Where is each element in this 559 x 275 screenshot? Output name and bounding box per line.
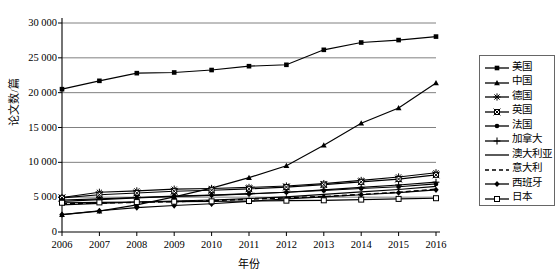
- data-point-marker: [433, 80, 439, 85]
- data-point-marker: [495, 124, 500, 129]
- legend-item[interactable]: 法国: [480, 117, 554, 132]
- data-point-marker: [209, 68, 214, 73]
- data-point-marker: [322, 48, 327, 53]
- data-point-marker: [396, 190, 401, 196]
- data-point-marker: [433, 171, 440, 178]
- data-point-marker: [396, 105, 402, 110]
- line-chart: 论文数/篇 年份 05 00010 00015 00020 00025 0003…: [0, 0, 559, 275]
- data-point-marker: [97, 79, 102, 84]
- x-tick-label: 2014: [341, 239, 381, 250]
- data-point-marker: [134, 200, 139, 205]
- legend-item[interactable]: 意大利: [480, 161, 554, 176]
- legend-item[interactable]: 美国: [480, 59, 554, 74]
- x-tick-label: 2016: [416, 239, 456, 250]
- legend-label: 美国: [510, 61, 532, 72]
- legend-label: 法国: [510, 119, 532, 130]
- data-point-marker: [135, 71, 140, 76]
- data-point-marker: [60, 87, 65, 92]
- data-point-marker: [359, 197, 364, 202]
- x-tick-label: 2013: [304, 239, 344, 250]
- legend-marker-icon: [484, 176, 510, 188]
- legend-label: 意大利: [510, 162, 542, 173]
- data-point-marker: [284, 198, 289, 203]
- plot-area: [0, 0, 559, 275]
- legend-marker-icon: [484, 60, 510, 72]
- legend-marker-icon: [484, 162, 510, 174]
- data-point-marker: [396, 38, 401, 43]
- legend-marker-icon: [484, 118, 510, 130]
- x-tick-label: 2010: [192, 239, 232, 250]
- series-line: [62, 37, 436, 90]
- x-tick-label: 2012: [266, 239, 306, 250]
- data-point-marker: [284, 63, 289, 68]
- data-point-marker: [494, 108, 501, 115]
- data-point-marker: [359, 40, 364, 45]
- data-point-marker: [284, 163, 290, 168]
- legend-item[interactable]: 澳大利亚: [480, 146, 554, 161]
- data-point-marker: [433, 187, 438, 193]
- data-point-marker: [247, 64, 252, 69]
- x-tick-label: 2015: [379, 239, 419, 250]
- legend-item[interactable]: 中国: [480, 74, 554, 89]
- legend-item[interactable]: 加拿大: [480, 132, 554, 147]
- legend-label: 德国: [510, 90, 532, 101]
- data-point-marker: [493, 94, 500, 101]
- legend-item[interactable]: 英国: [480, 103, 554, 118]
- legend-label: 加拿大: [510, 133, 542, 144]
- legend-label: 英国: [510, 104, 532, 115]
- data-point-marker: [495, 196, 500, 201]
- legend-marker-icon: [484, 89, 510, 101]
- legend-item[interactable]: 西班牙: [480, 175, 554, 190]
- data-point-marker: [358, 184, 365, 191]
- chart-legend: 美国中国德国英国法国加拿大澳大利亚意大利西班牙日本: [479, 55, 555, 206]
- data-point-marker: [321, 142, 327, 147]
- legend-marker-icon: [484, 133, 510, 145]
- x-tick-label: 2011: [229, 239, 269, 250]
- data-point-marker: [247, 198, 252, 203]
- x-tick-label: 2006: [42, 239, 82, 250]
- data-point-marker: [494, 181, 499, 187]
- data-point-marker: [434, 34, 439, 39]
- data-point-marker: [172, 199, 177, 204]
- legend-label: 澳大利亚: [510, 148, 552, 159]
- legend-label: 日本: [510, 191, 532, 202]
- data-point-marker: [396, 196, 401, 201]
- data-point-marker: [97, 200, 102, 205]
- data-point-marker: [395, 176, 402, 183]
- x-tick-label: 2007: [79, 239, 119, 250]
- data-point-marker: [172, 70, 177, 75]
- legend-item[interactable]: 日本: [480, 190, 554, 205]
- legend-marker-icon: [484, 104, 510, 116]
- legend-marker-icon: [484, 75, 510, 87]
- data-point-marker: [494, 137, 501, 144]
- data-point-marker: [434, 196, 439, 201]
- legend-marker-icon: [484, 147, 510, 159]
- legend-item[interactable]: 德国: [480, 88, 554, 103]
- legend-marker-icon: [484, 191, 510, 203]
- x-tick-label: 2009: [154, 239, 194, 250]
- data-point-marker: [209, 199, 214, 204]
- x-tick-label: 2008: [117, 239, 157, 250]
- legend-label: 西班牙: [510, 177, 542, 188]
- legend-label: 中国: [510, 75, 532, 86]
- data-point-marker: [321, 198, 326, 203]
- data-point-marker: [495, 66, 500, 71]
- data-point-marker: [60, 200, 65, 205]
